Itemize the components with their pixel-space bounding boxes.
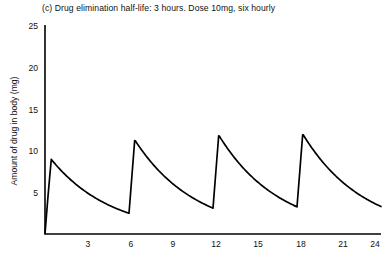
drug-concentration-curve [45,135,381,234]
plot-area [0,0,390,256]
chart-figure: (c) Drug elimination half-life: 3 hours.… [0,0,390,256]
